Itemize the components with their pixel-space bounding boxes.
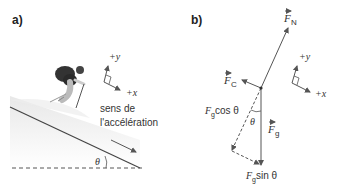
axis-x-label-a: +x xyxy=(126,87,138,98)
label-fn: F N xyxy=(283,11,297,27)
axes-a: +y +x xyxy=(104,51,138,98)
normal-force-arrow xyxy=(261,28,288,88)
acceleration-label-line1: sens de xyxy=(100,103,135,114)
center-of-mass-dot xyxy=(259,86,262,89)
axis-y-label-a: +y xyxy=(109,51,121,62)
label-fg-cos: F g cos θ xyxy=(204,105,239,119)
svg-text:C: C xyxy=(231,80,237,89)
svg-text:sin θ: sin θ xyxy=(256,170,278,181)
angle-theta-b: θ xyxy=(250,116,255,127)
angle-arc-b xyxy=(251,110,261,112)
panel-a-label: a) xyxy=(12,13,23,27)
svg-text:g: g xyxy=(275,129,279,138)
angle-theta-a: θ xyxy=(95,156,100,167)
free-body-diagram: a) θ +y +x sens de l'accélération b) xyxy=(0,0,337,190)
label-fc: F C xyxy=(223,73,237,89)
panel-b-label: b) xyxy=(191,13,202,27)
axes-b: +y +x xyxy=(292,51,327,99)
fg-sin-component xyxy=(232,151,259,164)
svg-text:cos θ: cos θ xyxy=(215,105,239,116)
svg-text:F: F xyxy=(267,123,275,135)
force-vectors xyxy=(232,28,288,165)
axis-y-label-b: +y xyxy=(299,51,311,62)
skier-figure xyxy=(50,66,84,108)
label-fg-sin: F g sin θ xyxy=(245,170,278,184)
axis-x-label-b: +x xyxy=(315,88,327,99)
svg-text:F: F xyxy=(283,12,291,24)
label-fg: F g xyxy=(267,122,279,138)
fg-cos-component xyxy=(232,88,261,150)
svg-text:N: N xyxy=(291,18,297,27)
friction-force-arrow xyxy=(242,80,261,88)
svg-text:F: F xyxy=(223,74,231,86)
acceleration-label-line2: l'accélération xyxy=(100,117,158,128)
